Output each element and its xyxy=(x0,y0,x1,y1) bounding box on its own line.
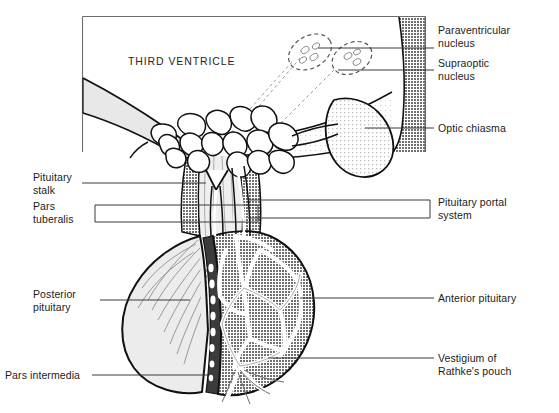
label-pars-intermedia: Pars intermedia xyxy=(5,369,80,382)
label-pituitary-stalk: Pituitary stalk xyxy=(33,171,72,196)
supraoptic-nucleus-shape xyxy=(326,35,377,81)
paraventricular-nucleus-shape xyxy=(282,27,338,78)
pituitary-diagram-figure: THIRD VENTRICLE Paraventricular nucleus … xyxy=(0,0,559,413)
label-optic-chiasma: Optic chiasma xyxy=(438,122,506,135)
label-posterior-pituitary: Posterior pituitary xyxy=(33,288,76,313)
label-third-ventricle: THIRD VENTRICLE xyxy=(128,55,235,68)
label-paraventricular-nucleus: Paraventricular nucleus xyxy=(438,24,510,49)
label-anterior-pituitary: Anterior pituitary xyxy=(438,292,516,305)
label-pars-tuberalis: Pars tuberalis xyxy=(33,200,74,225)
leader-portal-system xyxy=(248,200,430,218)
hypothalamus-region xyxy=(393,17,425,152)
posterior-pituitary-shape xyxy=(122,236,208,393)
label-pituitary-portal-system: Pituitary portal system xyxy=(438,196,507,221)
label-supraoptic-nucleus: Supraoptic nucleus xyxy=(438,57,489,82)
label-vestigium-of-rathkes-pouch: Vestigium of Rathke's pouch xyxy=(438,352,511,377)
